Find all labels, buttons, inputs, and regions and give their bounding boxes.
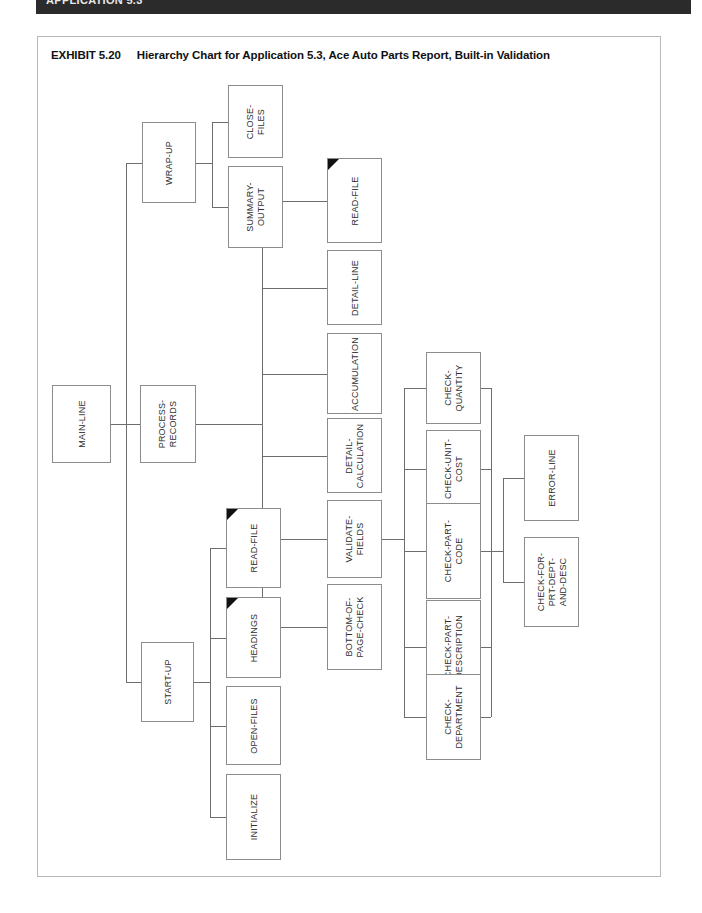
module-box-check-part-code[interactable]: CHECK-PART- CODE bbox=[426, 503, 481, 599]
module-box-initialize[interactable]: INITIALIZE bbox=[226, 774, 281, 860]
module-box-bottom-of-page-check[interactable]: BOTTOM-OF- PAGE-CHECK bbox=[327, 584, 382, 670]
module-box-open-files[interactable]: OPEN-FILES bbox=[226, 686, 281, 765]
module-label: CLOSE- FILES bbox=[245, 104, 267, 139]
module-label: READ-FILE bbox=[248, 524, 259, 573]
module-box-detail-line[interactable]: DETAIL-LINE bbox=[327, 250, 382, 325]
module-box-summary-output[interactable]: SUMMARY- OUTPUT bbox=[228, 166, 283, 248]
module-box-read-file-startup[interactable]: READ-FILE bbox=[226, 508, 281, 588]
module-label: PROCESS- RECORDS bbox=[157, 400, 179, 449]
module-box-check-for-prt-dept[interactable]: CHECK-FOR- PRT-DEPT- AND-DESC bbox=[524, 537, 579, 627]
module-label: ERROR-LINE bbox=[546, 449, 557, 507]
module-label: START-UP bbox=[162, 659, 173, 704]
module-label: OPEN-FILES bbox=[248, 698, 259, 754]
module-box-process-records[interactable]: PROCESS- RECORDS bbox=[140, 385, 196, 463]
module-label: CHECK-FOR- PRT-DEPT- AND-DESC bbox=[535, 553, 568, 612]
module-box-wrap-up[interactable]: WRAP-UP bbox=[142, 122, 196, 203]
module-label: CHECK- DEPARTMENT bbox=[443, 685, 465, 748]
module-label: DETAIL-LINE bbox=[349, 259, 360, 315]
module-box-main-line[interactable]: MAIN-LINE bbox=[52, 385, 111, 463]
module-box-read-file-process[interactable]: READ-FILE bbox=[327, 158, 382, 243]
module-label: VALIDATE- FIELDS bbox=[344, 516, 366, 563]
module-box-close-files[interactable]: CLOSE- FILES bbox=[228, 85, 283, 158]
module-box-validate-fields[interactable]: VALIDATE- FIELDS bbox=[327, 500, 382, 578]
running-head-band: APPLICATION 5.3 bbox=[36, 0, 691, 14]
module-box-headings[interactable]: HEADINGS bbox=[226, 597, 281, 678]
module-label: HEADINGS bbox=[248, 613, 259, 662]
exhibit-number: EXHIBIT 5.20 bbox=[51, 49, 121, 61]
module-box-accumulation[interactable]: ACCUMULATION bbox=[327, 333, 382, 414]
module-label: CHECK-PART- DESCRIPTION bbox=[443, 615, 465, 679]
module-label: BOTTOM-OF- PAGE-CHECK bbox=[344, 597, 366, 658]
module-label: CHECK-PART- CODE bbox=[443, 520, 465, 582]
module-label: MAIN-LINE bbox=[76, 400, 87, 447]
module-label: INITIALIZE bbox=[248, 794, 259, 841]
running-head-text: APPLICATION 5.3 bbox=[46, 0, 143, 6]
module-box-check-quantity[interactable]: CHECK- QUANTITY bbox=[426, 352, 481, 424]
exhibit-title-text: Hierarchy Chart for Application 5.3, Ace… bbox=[137, 49, 550, 61]
module-box-check-department[interactable]: CHECK- DEPARTMENT bbox=[426, 674, 481, 760]
module-label: SUMMARY- OUTPUT bbox=[245, 182, 267, 232]
module-box-start-up[interactable]: START-UP bbox=[141, 642, 194, 722]
module-label: READ-FILE bbox=[349, 176, 360, 225]
exhibit-title: EXHIBIT 5.20Hierarchy Chart for Applicat… bbox=[51, 49, 550, 61]
module-label: DETAIL- CALCULATION bbox=[344, 423, 366, 488]
module-box-check-unit-cost[interactable]: CHECK-UNIT- COST bbox=[426, 430, 481, 508]
module-label: ACCUMULATION bbox=[349, 337, 360, 411]
module-label: CHECK-UNIT- COST bbox=[443, 439, 465, 499]
module-label: CHECK- QUANTITY bbox=[443, 364, 465, 411]
module-label: WRAP-UP bbox=[164, 141, 175, 185]
module-box-detail-calculation[interactable]: DETAIL- CALCULATION bbox=[327, 418, 382, 493]
module-box-error-line[interactable]: ERROR-LINE bbox=[524, 435, 579, 521]
